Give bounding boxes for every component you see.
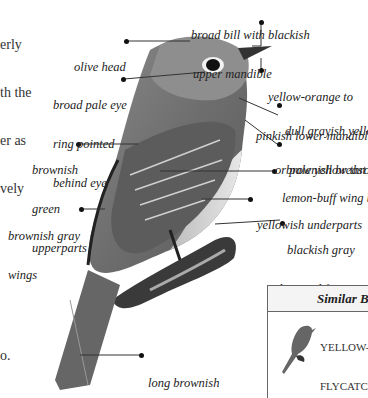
small-bird-thumbnail xyxy=(278,320,318,380)
label-line: long brownish xyxy=(148,377,219,390)
label-line: broad pale eye xyxy=(53,99,127,112)
label-line: brownish gray xyxy=(8,230,80,243)
pointer-dot xyxy=(139,353,144,358)
similar-birds-box: Similar Birds YELLOW- FLYCATC Shorter t … xyxy=(267,285,368,398)
label-line: blackish gray xyxy=(287,244,355,257)
species-name-line: FLYCATC xyxy=(320,380,368,393)
pointer-dot xyxy=(248,197,253,202)
label-line: dull grayish yellow xyxy=(285,125,368,138)
similar-bird-description: YELLOW- FLYCATC Shorter t tip; stron ton… xyxy=(320,315,368,398)
label-line: brownish xyxy=(32,164,87,177)
label-wings: brownish gray wings xyxy=(8,204,80,295)
species-name-line: YELLOW- xyxy=(320,341,368,354)
label-line: wings xyxy=(8,269,80,282)
label-line: broad bill with blackish xyxy=(191,29,310,42)
similar-birds-title: Similar Birds xyxy=(268,286,368,312)
label-tail: long brownish gray tail xyxy=(148,351,219,398)
